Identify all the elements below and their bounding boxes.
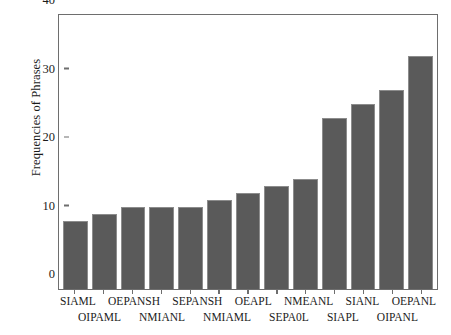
bar-SIAML[interactable]	[63, 221, 88, 290]
x-label-spacer	[272, 294, 284, 308]
bar-slot	[90, 15, 119, 289]
bar-slot	[176, 15, 205, 289]
bar-OEPANL[interactable]	[408, 56, 433, 289]
x-label-SEPA0L: SEPA0L	[269, 310, 309, 324]
x-label-SIAPL: SIAPL	[327, 310, 359, 324]
bar-slot	[119, 15, 148, 289]
bar-slot	[61, 15, 90, 289]
y-tick-label: 20	[43, 130, 60, 145]
x-label-spacer	[121, 310, 139, 324]
bar-NMIANL[interactable]	[149, 207, 174, 289]
bar-OEAPL[interactable]	[236, 193, 261, 289]
bar-slot	[234, 15, 263, 289]
x-label-spacer	[418, 310, 436, 324]
bar-chart-figure: Frequencies of Phrases 010203040 SIAMLOE…	[0, 0, 451, 335]
x-label-spacer	[359, 310, 377, 324]
x-label-spacer	[379, 294, 391, 308]
x-label-spacer	[333, 294, 345, 308]
bar-OIPANL[interactable]	[379, 90, 404, 289]
x-label-spacer	[309, 310, 327, 324]
x-label-OIPANL: OIPANL	[377, 310, 418, 324]
bar-NMIAML[interactable]	[207, 200, 232, 289]
bar-slot	[320, 15, 349, 289]
x-label-NMIANL: NMIANL	[139, 310, 185, 324]
bar-OIPAML[interactable]	[92, 214, 117, 289]
bar-slot	[262, 15, 291, 289]
x-label-SIAML: SIAML	[60, 294, 96, 308]
x-label-OEPANSH: OEPANSH	[108, 294, 160, 308]
x-label-spacer	[251, 310, 269, 324]
y-tick-10: 10	[43, 198, 60, 213]
x-label-SEPANSH: SEPANSH	[172, 294, 222, 308]
y-tick-30: 30	[43, 61, 60, 76]
bar-slot	[205, 15, 234, 289]
x-label-SIANL: SIANL	[346, 294, 380, 308]
y-tick-20: 20	[43, 130, 60, 145]
bar-slot	[147, 15, 176, 289]
y-axis-title: Frequencies of Phrases	[29, 18, 44, 218]
y-tick-label: 10	[43, 198, 60, 213]
x-axis-labels-row-bottom: OIPAMLNMIANLNMIAMLSEPA0LSIAPLOIPANL	[58, 310, 438, 324]
x-label-spacer	[222, 294, 234, 308]
x-label-OIPAML: OIPAML	[78, 310, 121, 324]
bar-OEPANSH[interactable]	[121, 207, 146, 289]
x-label-OEPANL: OEPANL	[392, 294, 436, 308]
x-label-NMIAML: NMIAML	[203, 310, 251, 324]
y-tick-label: 30	[43, 61, 60, 76]
y-tick-label: 40	[43, 0, 60, 8]
bar-SIANL[interactable]	[351, 104, 376, 289]
bar-SIAPL[interactable]	[322, 118, 347, 289]
bar-slot	[377, 15, 406, 289]
x-label-spacer	[160, 294, 172, 308]
x-axis-labels-row-top: SIAMLOEPANSHSEPANSHOEAPLNMEANLSIANLOEPAN…	[58, 294, 438, 308]
y-tick-label: 0	[49, 267, 59, 282]
y-tick-0: 0	[49, 267, 59, 282]
plot-area: 010203040	[58, 14, 438, 290]
x-label-NMEANL: NMEANL	[284, 294, 333, 308]
x-label-spacer	[185, 310, 203, 324]
x-label-spacer	[96, 294, 108, 308]
bar-SEPANSH[interactable]	[178, 207, 203, 289]
bar-slot	[349, 15, 378, 289]
x-label-spacer	[60, 310, 78, 324]
bar-slot	[291, 15, 320, 289]
bar-slot	[406, 15, 435, 289]
y-tick-40: 40	[43, 0, 60, 8]
x-label-OEAPL: OEAPL	[235, 294, 272, 308]
y-tick-mark	[64, 0, 69, 1]
bar-SEPA0L[interactable]	[264, 186, 289, 289]
bar-NMEANL[interactable]	[293, 179, 318, 289]
bars-container	[59, 15, 437, 289]
